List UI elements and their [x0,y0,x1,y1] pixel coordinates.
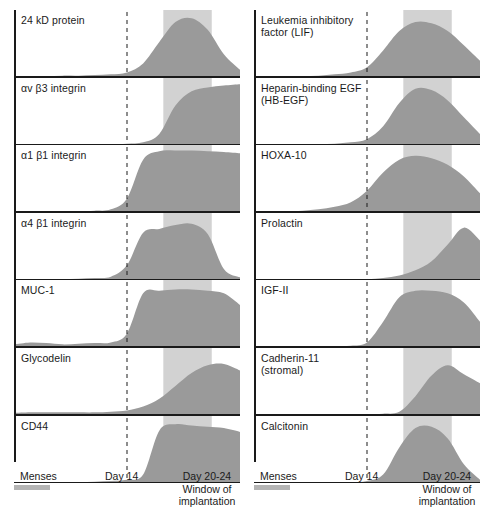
panel-divider [14,279,240,281]
expression-curve-plot [254,10,480,78]
expression-curve-plot [14,213,240,281]
panel-divider [14,211,240,213]
tick-label-implantation-window: Day 20-24 Window of implantation [164,470,250,508]
panel-stack-left: 24 kD proteinαv β3 integrinα1 β1 integri… [14,10,240,462]
expression-curve-plot [14,280,240,348]
tick-label-menses: Menses [20,470,57,483]
expression-curve-plot [254,213,480,281]
panel-divider [254,279,480,281]
tick-label-menses: Menses [260,470,297,483]
marker-panel: αv β3 integrin [14,78,240,146]
axis-tick-labels-right: Menses Day 14 Day 20-24 Window of implan… [254,470,481,520]
tick-label-implantation-window: Day 20-24 Window of implantation [404,470,481,508]
marker-panel: α1 β1 integrin [14,145,240,213]
marker-panel: Cadherin-11 (stromal) [254,348,480,416]
expression-curve-plot [254,145,480,213]
tick-label-day14: Day 14 [345,470,378,483]
marker-panel: IGF-II [254,280,480,348]
expression-curve-plot [14,78,240,146]
panel-divider [14,346,240,348]
marker-panel: Leukemia inhibitory factor (LIF) [254,10,480,78]
expression-curve-plot [14,10,240,78]
panel-divider [14,414,240,416]
marker-panel: MUC-1 [14,280,240,348]
marker-panel: α4 β1 integrin [14,213,240,281]
marker-panel: Glycodelin [14,348,240,416]
panel-stack-right: Leukemia inhibitory factor (LIF)Heparin-… [254,10,480,462]
marker-column-left: 24 kD proteinαv β3 integrinα1 β1 integri… [14,0,240,520]
y-axis-spine-right [254,10,256,462]
panel-divider [254,144,480,146]
panel-divider [254,76,480,78]
panel-divider [254,414,480,416]
marker-panel: Prolactin [254,213,480,281]
panel-divider [14,76,240,78]
y-axis-spine-left [14,10,16,462]
marker-column-right: Leukemia inhibitory factor (LIF)Heparin-… [254,0,480,520]
marker-panel: HOXA-10 [254,145,480,213]
tick-label-day14: Day 14 [105,470,138,483]
axis-tick-labels-left: Menses Day 14 Day 20-24 Window of implan… [14,470,250,520]
expression-curve-plot [14,348,240,416]
expression-curve-plot [14,145,240,213]
panel-divider [254,346,480,348]
expression-curve-plot [254,78,480,146]
expression-curve-plot [254,280,480,348]
panel-divider [14,144,240,146]
marker-panel: Heparin-binding EGF (HB-EGF) [254,78,480,146]
panel-divider [254,211,480,213]
marker-panel: 24 kD protein [14,10,240,78]
expression-curve-plot [254,348,480,416]
expression-figure: 24 kD proteinαv β3 integrinα1 β1 integri… [0,0,481,520]
